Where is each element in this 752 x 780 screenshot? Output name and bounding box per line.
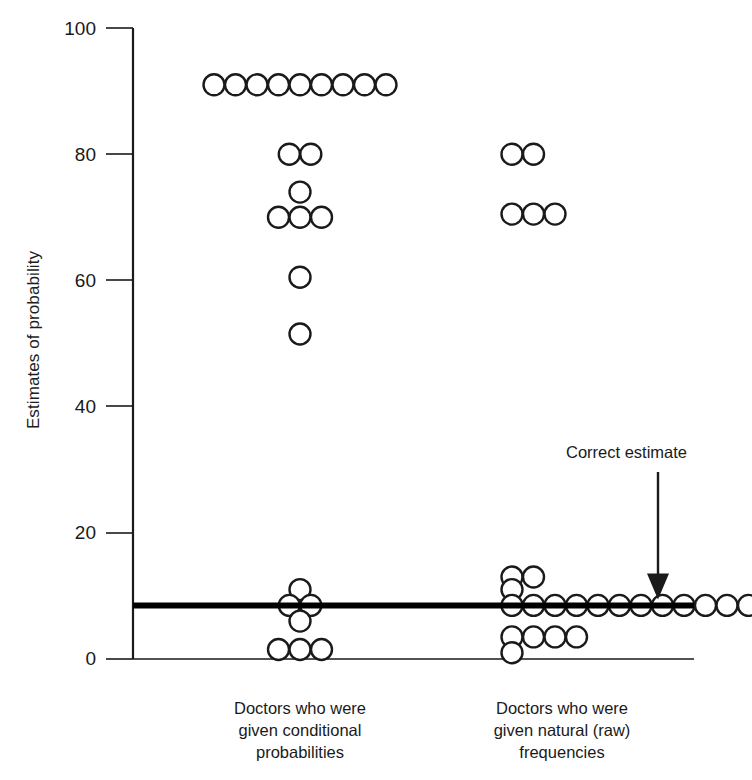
annotation-arrow [647, 472, 669, 599]
data-point [290, 207, 311, 228]
data-markers [204, 74, 752, 663]
data-point [268, 74, 289, 95]
data-point [523, 626, 544, 647]
data-point [204, 74, 225, 95]
data-point [290, 639, 311, 660]
data-point [502, 642, 523, 663]
data-point [333, 74, 354, 95]
data-point [354, 74, 375, 95]
data-point [523, 567, 544, 588]
data-point [311, 74, 332, 95]
data-point [545, 204, 566, 225]
plot-area [0, 0, 752, 780]
data-point [290, 267, 311, 288]
data-point [290, 611, 311, 632]
data-point [717, 595, 738, 616]
data-point [502, 144, 523, 165]
data-point [566, 626, 587, 647]
data-point [523, 144, 544, 165]
data-point [247, 74, 268, 95]
data-point [545, 626, 566, 647]
data-point [290, 74, 311, 95]
data-point [695, 595, 716, 616]
axes [106, 28, 694, 659]
data-point [268, 207, 289, 228]
data-point [300, 144, 321, 165]
dot-plot-figure: Estimates of probability 100 80 60 40 20… [0, 0, 752, 780]
data-point [290, 182, 311, 203]
data-point [290, 324, 311, 345]
data-point [311, 207, 332, 228]
data-point [311, 639, 332, 660]
data-point [738, 595, 752, 616]
data-point [268, 639, 289, 660]
data-point [225, 74, 246, 95]
data-point [376, 74, 397, 95]
data-point [279, 144, 300, 165]
data-point [502, 204, 523, 225]
y-axis-ticks [106, 28, 133, 659]
data-point [523, 204, 544, 225]
